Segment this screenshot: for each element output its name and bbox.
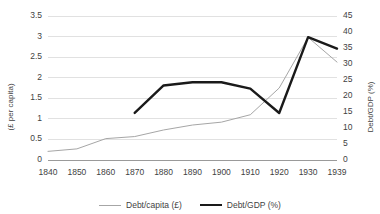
x-axis-tick-label: 1939 — [317, 167, 357, 177]
y-axis-right-tick-label: 0 — [343, 154, 371, 164]
y-axis-left-tick-label: 3 — [6, 31, 42, 41]
y-axis-right-tick-label: 10 — [343, 122, 371, 132]
series-line-1 — [48, 37, 337, 151]
y-axis-left-tick-label: 1 — [6, 113, 42, 123]
dual-axis-line-chart: (£ per capita) Debt/GDP (%) 00.511.522.5… — [0, 0, 380, 214]
y-axis-left-title: (£ per capita) — [6, 71, 15, 143]
legend-item-label: Debt/GDP (%) — [227, 200, 281, 210]
y-axis-left-tick-label: 0 — [6, 154, 42, 164]
legend-item-label: Debt/capita (£) — [126, 200, 182, 210]
y-axis-right-tick-label: 30 — [343, 58, 371, 68]
y-axis-right-tick-label: 25 — [343, 74, 371, 84]
y-axis-right-tick-label: 40 — [343, 26, 371, 36]
y-axis-right-tick-label: 15 — [343, 106, 371, 116]
y-axis-left-tick-label: 0.5 — [6, 133, 42, 143]
y-axis-right-tick-label: 35 — [343, 42, 371, 52]
y-axis-right-tick-label: 45 — [343, 10, 371, 20]
legend-line-swatch-icon — [99, 205, 121, 206]
chart-legend: Debt/capita (£)Debt/GDP (%) — [0, 200, 380, 210]
series-line-2 — [135, 37, 337, 113]
y-axis-left-tick-label: 1.5 — [6, 92, 42, 102]
y-axis-left-tick-label: 2.5 — [6, 51, 42, 61]
y-axis-right-tick-label: 5 — [343, 138, 371, 148]
legend-line-swatch-icon — [200, 204, 222, 206]
legend-item[interactable]: Debt/GDP (%) — [200, 200, 281, 210]
y-axis-right-tick-label: 20 — [343, 90, 371, 100]
plot-area — [48, 16, 337, 160]
legend-item[interactable]: Debt/capita (£) — [99, 200, 182, 210]
y-axis-left-tick-label: 2 — [6, 72, 42, 82]
y-axis-left-tick-label: 3.5 — [6, 10, 42, 20]
